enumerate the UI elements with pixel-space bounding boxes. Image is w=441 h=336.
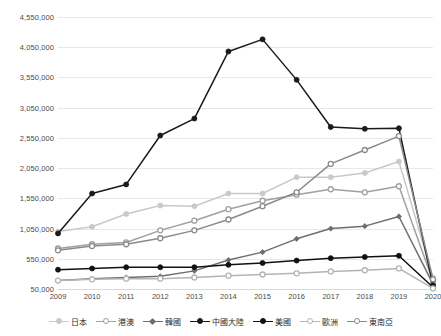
data-point bbox=[56, 267, 61, 272]
series-7 bbox=[56, 134, 436, 282]
data-point bbox=[226, 273, 231, 278]
series-1 bbox=[56, 159, 436, 280]
data-point bbox=[328, 125, 333, 130]
x-axis-tick-label: 2020 bbox=[425, 292, 441, 301]
x-axis-tick-label: 2010 bbox=[84, 292, 101, 301]
data-point bbox=[226, 191, 231, 196]
data-point bbox=[90, 224, 95, 229]
y-axis-tick-label: 4,050,000 bbox=[20, 43, 54, 52]
gridline bbox=[58, 289, 433, 290]
series-6 bbox=[56, 266, 436, 291]
data-point bbox=[260, 37, 265, 42]
data-point bbox=[124, 182, 129, 187]
legend-item-label: 港澳 bbox=[118, 316, 134, 327]
data-point bbox=[260, 250, 265, 255]
series-line bbox=[58, 268, 433, 288]
data-point bbox=[226, 257, 231, 262]
x-axis-tick-label: 2015 bbox=[254, 292, 271, 301]
data-point bbox=[294, 77, 299, 82]
legend-item-6[interactable]: 歐洲 bbox=[300, 316, 338, 327]
data-point bbox=[396, 214, 401, 219]
plot-area bbox=[58, 17, 433, 289]
y-axis-tick-label: 3,050,000 bbox=[20, 103, 54, 112]
data-point bbox=[396, 126, 401, 131]
data-point bbox=[328, 256, 333, 261]
data-point bbox=[396, 134, 401, 139]
data-point bbox=[396, 184, 401, 189]
data-point bbox=[396, 159, 401, 164]
x-axis-tick-label: 2018 bbox=[356, 292, 373, 301]
y-axis-tick-label: 1,550,000 bbox=[20, 194, 54, 203]
y-axis-tick-label: 4,550,000 bbox=[20, 13, 54, 22]
data-point bbox=[226, 262, 231, 267]
legend-marker-icon bbox=[253, 317, 273, 326]
data-point bbox=[294, 190, 299, 195]
x-axis-tick-label: 2016 bbox=[288, 292, 305, 301]
x-axis-tick-label: 2014 bbox=[220, 292, 237, 301]
data-point bbox=[56, 231, 61, 236]
y-axis: 50,000550,0001,050,0001,550,0002,050,000… bbox=[0, 17, 54, 289]
x-axis-tick-label: 2017 bbox=[322, 292, 339, 301]
data-point bbox=[294, 258, 299, 263]
x-axis: 2009201020112012201320142015201620172018… bbox=[58, 292, 433, 306]
chart-legend: 日本港澳韓國中國大陸美國歐洲東南亞 bbox=[0, 311, 441, 331]
data-point bbox=[90, 191, 95, 196]
series-4 bbox=[56, 37, 436, 288]
data-point bbox=[226, 207, 231, 212]
data-point bbox=[90, 277, 95, 282]
data-point bbox=[294, 271, 299, 276]
data-point bbox=[90, 266, 95, 271]
legend-item-5[interactable]: 美國 bbox=[253, 316, 291, 327]
data-point bbox=[362, 268, 367, 273]
legend-item-label: 日本 bbox=[71, 316, 87, 327]
legend-item-1[interactable]: 日本 bbox=[49, 316, 87, 327]
data-point bbox=[158, 265, 163, 270]
legend-item-3[interactable]: 韓國 bbox=[143, 316, 181, 327]
data-point bbox=[328, 161, 333, 166]
series-5 bbox=[56, 253, 436, 289]
y-axis-tick-label: 1,050,000 bbox=[20, 224, 54, 233]
data-point bbox=[328, 226, 333, 231]
data-point bbox=[328, 187, 333, 192]
line-chart: 50,000550,0001,050,0001,550,0002,050,000… bbox=[0, 0, 441, 336]
y-axis-tick-label: 2,550,000 bbox=[20, 133, 54, 142]
legend-item-7[interactable]: 東南亞 bbox=[347, 316, 393, 327]
data-point bbox=[396, 253, 401, 258]
legend-marker-icon bbox=[143, 317, 163, 326]
data-point bbox=[124, 212, 129, 217]
legend-marker-icon bbox=[96, 317, 116, 326]
data-point bbox=[90, 244, 95, 249]
legend-item-2[interactable]: 港澳 bbox=[96, 316, 134, 327]
data-point bbox=[158, 236, 163, 241]
legend-marker-icon bbox=[49, 317, 69, 326]
legend-item-4[interactable]: 中國大陸 bbox=[190, 316, 244, 327]
x-axis-tick-label: 2012 bbox=[152, 292, 169, 301]
data-point bbox=[192, 275, 197, 280]
legend-item-label: 韓國 bbox=[165, 316, 181, 327]
data-point bbox=[328, 269, 333, 274]
data-point bbox=[158, 228, 163, 233]
series-line bbox=[58, 186, 433, 281]
legend-item-label: 中國大陸 bbox=[212, 316, 244, 327]
data-point bbox=[362, 254, 367, 259]
x-axis-tick-label: 2011 bbox=[118, 292, 134, 301]
legend-item-label: 歐洲 bbox=[322, 316, 338, 327]
data-point bbox=[260, 272, 265, 277]
legend-marker-icon bbox=[347, 317, 367, 326]
x-axis-tick-label: 2009 bbox=[50, 292, 67, 301]
data-point bbox=[124, 242, 129, 247]
series-line bbox=[58, 136, 433, 279]
data-point bbox=[362, 190, 367, 195]
data-point bbox=[158, 133, 163, 138]
legend-item-label: 美國 bbox=[275, 316, 291, 327]
data-point bbox=[158, 276, 163, 281]
data-point bbox=[260, 261, 265, 266]
data-point bbox=[158, 203, 163, 208]
series-layer bbox=[58, 17, 433, 289]
data-point bbox=[362, 224, 367, 229]
data-point bbox=[124, 265, 129, 270]
data-point bbox=[431, 286, 436, 291]
series-line bbox=[58, 216, 433, 284]
data-point bbox=[431, 277, 436, 282]
data-point bbox=[124, 276, 129, 281]
